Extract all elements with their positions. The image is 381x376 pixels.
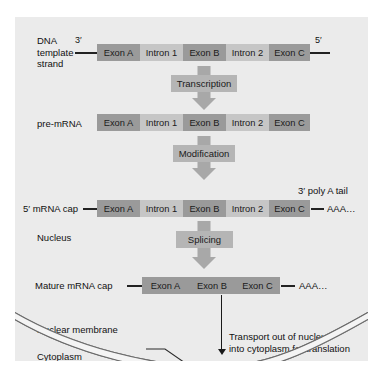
pre-mrna-segment-exon-c: Exon C <box>269 114 310 131</box>
mature-mrna-segment-exon-c: Exon C <box>235 277 280 294</box>
pre-mrna-segment-intron-2: Intron 2 <box>226 114 269 131</box>
diagram-panel: DNA template strand 3′ Exon A Intron 1 E… <box>15 17 368 361</box>
process-splicing: Splicing <box>176 231 233 248</box>
dna-segment-intron-2: Intron 2 <box>226 44 269 61</box>
mature-mrna-segment-bar: Exon A Exon B Exon C <box>142 277 280 294</box>
mature-mrna-cap-connector <box>127 285 142 287</box>
pre-mrna-segment-intron-1: Intron 1 <box>140 114 183 131</box>
mature-mrna-segment-exon-b: Exon B <box>189 277 235 294</box>
poly-a-connector <box>311 208 324 210</box>
nuclear-membrane-graphic <box>15 17 368 361</box>
capped-mrna-segment-bar: Exon A Intron 1 Exon B Intron 2 Exon C <box>97 200 310 217</box>
mature-mrna-segment-exon-a: Exon A <box>142 277 189 294</box>
capped-mrna-segment-exon-b: Exon B <box>183 200 226 217</box>
capped-mrna-segment-intron-1: Intron 1 <box>140 200 183 217</box>
capped-mrna-segment-exon-c: Exon C <box>269 200 310 217</box>
capped-mrna-segment-intron-2: Intron 2 <box>226 200 269 217</box>
pre-mrna-segment-bar: Exon A Intron 1 Exon B Intron 2 Exon C <box>97 114 310 131</box>
diagram-canvas: DNA template strand 3′ Exon A Intron 1 E… <box>0 0 381 376</box>
capped-mrna-segment-exon-a: Exon A <box>97 200 140 217</box>
dna-segment-bar: Exon A Intron 1 Exon B Intron 2 Exon C <box>97 44 310 61</box>
process-modification: Modification <box>173 145 235 162</box>
dna-segment-exon-c: Exon C <box>269 44 310 61</box>
dna-segment-intron-1: Intron 1 <box>140 44 183 61</box>
dna-right-connector <box>310 52 330 54</box>
process-transcription: Transcription <box>171 75 237 92</box>
mature-mrna-tail-connector <box>281 285 295 287</box>
pre-mrna-segment-exon-b: Exon B <box>183 114 226 131</box>
dna-segment-exon-a: Exon A <box>97 44 140 61</box>
dna-segment-exon-b: Exon B <box>183 44 226 61</box>
pre-mrna-segment-exon-a: Exon A <box>97 114 140 131</box>
dna-left-connector <box>75 52 97 54</box>
mrna-cap-connector <box>83 208 97 210</box>
